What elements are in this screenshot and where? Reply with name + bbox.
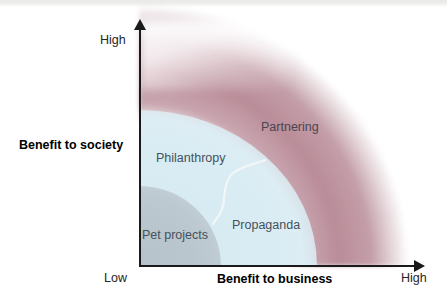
x-axis-line [139,265,419,267]
region-label-propaganda: Propaganda [232,218,300,232]
x-axis-title: Benefit to business [217,272,332,286]
region-label-philanthropy: Philanthropy [156,151,226,165]
y-axis-title: Benefit to society [19,138,123,152]
y-axis-line [139,26,141,267]
page-scan-band [0,0,447,7]
x-axis-high-label: High [401,271,427,285]
region-label-partnering: Partnering [261,120,319,134]
partnering-fade-overlay [139,20,289,90]
y-axis-arrow-icon [134,19,146,30]
diagram-canvas: High Low High Benefit to society Benefit… [0,0,447,306]
y-axis-high-label: High [100,33,126,47]
y-axis-low-label: Low [104,271,127,285]
region-label-pet-projects: Pet projects [142,228,208,242]
